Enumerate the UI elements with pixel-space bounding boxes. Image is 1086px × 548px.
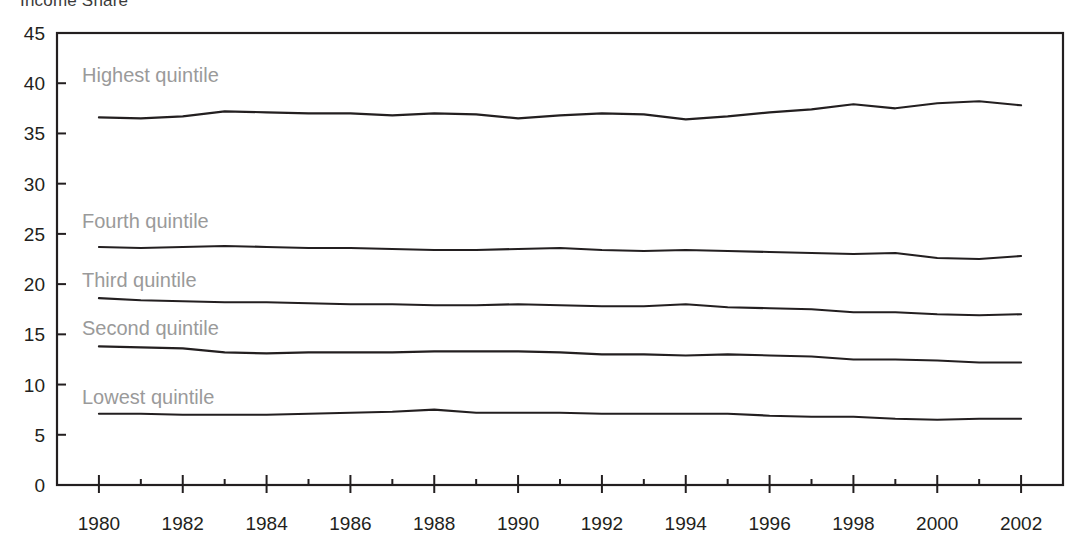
series-line-second — [99, 346, 1021, 362]
y-tick-label: 0 — [34, 475, 45, 496]
y-tick-label: 25 — [24, 224, 45, 245]
series-line-fourth — [99, 246, 1021, 259]
x-tick-label: 1998 — [832, 513, 874, 534]
x-tick-label: 1984 — [245, 513, 288, 534]
y-axis-tick-labels: 051015202530354045 — [24, 23, 45, 496]
series-line-third — [99, 298, 1021, 315]
series-label-lowest: Lowest quintile — [82, 386, 214, 408]
x-tick-label: 1994 — [665, 513, 708, 534]
series-line-highest — [99, 101, 1021, 119]
y-tick-label: 40 — [24, 73, 45, 94]
x-tick-label: 1986 — [329, 513, 371, 534]
x-tick-label: 2000 — [916, 513, 958, 534]
y-tick-label: 15 — [24, 324, 45, 345]
x-tick-label: 1980 — [78, 513, 120, 534]
y-tick-label: 10 — [24, 375, 45, 396]
y-tick-label: 30 — [24, 174, 45, 195]
series-line-lowest — [99, 410, 1021, 420]
x-tick-label: 1996 — [748, 513, 790, 534]
series-label-third: Third quintile — [82, 269, 197, 291]
x-tick-label: 1990 — [497, 513, 539, 534]
series-label-fourth: Fourth quintile — [82, 210, 209, 232]
y-tick-label: 5 — [34, 425, 45, 446]
x-tick-label: 1982 — [162, 513, 204, 534]
y-tick-label: 20 — [24, 274, 45, 295]
x-tick-label: 1992 — [581, 513, 623, 534]
line-chart-plot: 051015202530354045 198019821984198619881… — [0, 0, 1086, 548]
y-tick-label: 35 — [24, 123, 45, 144]
series-label-second: Second quintile — [82, 317, 219, 339]
y-tick-label: 45 — [24, 23, 45, 44]
series-lines-group — [99, 101, 1021, 419]
plot-frame-border — [57, 33, 1063, 485]
x-axis-tick-labels: 1980198219841986198819901992199419961998… — [78, 513, 1042, 534]
x-tick-label: 2002 — [1000, 513, 1042, 534]
series-label-highest: Highest quintile — [82, 64, 219, 86]
axis-tick-marks — [57, 83, 1021, 493]
x-tick-label: 1988 — [413, 513, 455, 534]
series-inline-labels: Highest quintileFourth quintileThird qui… — [82, 64, 219, 408]
chart-figure: Income Share 051015202530354045 19801982… — [0, 0, 1086, 548]
